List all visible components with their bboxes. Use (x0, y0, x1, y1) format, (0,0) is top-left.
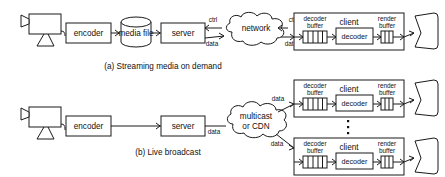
node-media-file: media file (118, 17, 153, 47)
encoder-label: encoder (74, 29, 104, 38)
camera-icon (21, 14, 65, 46)
camera-icon-b (21, 107, 65, 139)
ctrl-left-label: ctrl (209, 16, 218, 23)
decoder-buffer-label-line2-b-bottom: buffer (307, 147, 324, 154)
client-label-b-bottom: client (339, 143, 359, 152)
render-buffer-label-line2-b-bottom: buffer (379, 147, 396, 154)
conn-client-display-a (404, 31, 414, 37)
encoder-label-b: encoder (74, 122, 104, 131)
display-icon-b-bottom (415, 138, 438, 174)
render-buffer-label-line2-b-top: buffer (379, 89, 396, 96)
panel-a: encoder media file server ctrl (21, 12, 438, 71)
conn-ctrl-left: ctrl (205, 16, 222, 31)
display-icon-b-top (415, 80, 438, 116)
render-buffer-label-line1-b-top: render (378, 82, 397, 89)
node-decoder-b-top: decoder (336, 95, 373, 111)
decoder-label: decoder (342, 32, 369, 41)
conn-server-cloud-b: data (205, 126, 226, 135)
server-label: server (172, 29, 195, 38)
decoder-buffer-label-line2-b-top: buffer (307, 89, 324, 96)
panel-b: encoder server data multicast or CDN dat… (21, 80, 438, 175)
node-client-a: client decoder buffer decod (294, 13, 404, 50)
render-buffer-label-line1-b-bottom: render (378, 140, 397, 147)
node-client-b-bottom: client decoder buffer decoder (294, 138, 404, 175)
multicast-label-line2: or CDN (242, 122, 269, 131)
node-multicast-cloud: multicast or CDN (227, 102, 286, 138)
data-top-client-label: data (272, 95, 285, 102)
figure-canvas: encoder media file server ctrl (0, 0, 445, 177)
node-server-b: server (161, 116, 205, 136)
node-encoder-b: encoder (66, 116, 111, 136)
decoder-buffer-label-line2: buffer (307, 22, 324, 29)
decoder-buffer-label-line1-b-top: decoder (303, 82, 327, 89)
decoder-buffer-label-line1: decoder (303, 15, 327, 22)
caption-panel-b: (b) Live broadcast (135, 148, 201, 157)
data-server-label: data (208, 128, 221, 135)
decoder-label-b-top: decoder (342, 99, 369, 108)
decoder-label-b-bottom: decoder (342, 157, 369, 166)
client-label: client (339, 18, 359, 27)
streaming-architecture-diagram: encoder media file server ctrl (0, 0, 445, 177)
decoder-buffer-label-line1-b-bottom: decoder (303, 140, 327, 147)
display-icon-a (415, 13, 438, 49)
conn-data-left: data (205, 33, 224, 47)
node-encoder-a: encoder (66, 23, 111, 43)
data-bottom-client-label: data (271, 140, 284, 147)
client-label-b-top: client (339, 85, 359, 94)
render-buffer-label-line1: render (378, 15, 397, 22)
data-left-label: data (206, 40, 219, 47)
node-decoder-a: decoder (336, 28, 373, 44)
conn-client-display-b-top (404, 98, 414, 104)
conn-encoder-server-b (111, 123, 161, 129)
node-client-b-top: client decoder buffer decoder (294, 80, 404, 117)
vertical-ellipsis-icon (347, 120, 349, 134)
media-file-label: media file (118, 29, 153, 38)
node-server-a: server (161, 23, 205, 43)
multicast-label-line1: multicast (240, 112, 273, 121)
conn-client-display-b-bottom (404, 156, 414, 162)
network-label: network (242, 24, 272, 33)
render-buffer-label-line2: buffer (379, 22, 396, 29)
node-decoder-b-bottom: decoder (336, 153, 373, 169)
node-network-cloud: network (226, 12, 283, 45)
caption-panel-a: (a) Streaming media on demand (104, 62, 222, 71)
server-label-b: server (172, 122, 195, 131)
